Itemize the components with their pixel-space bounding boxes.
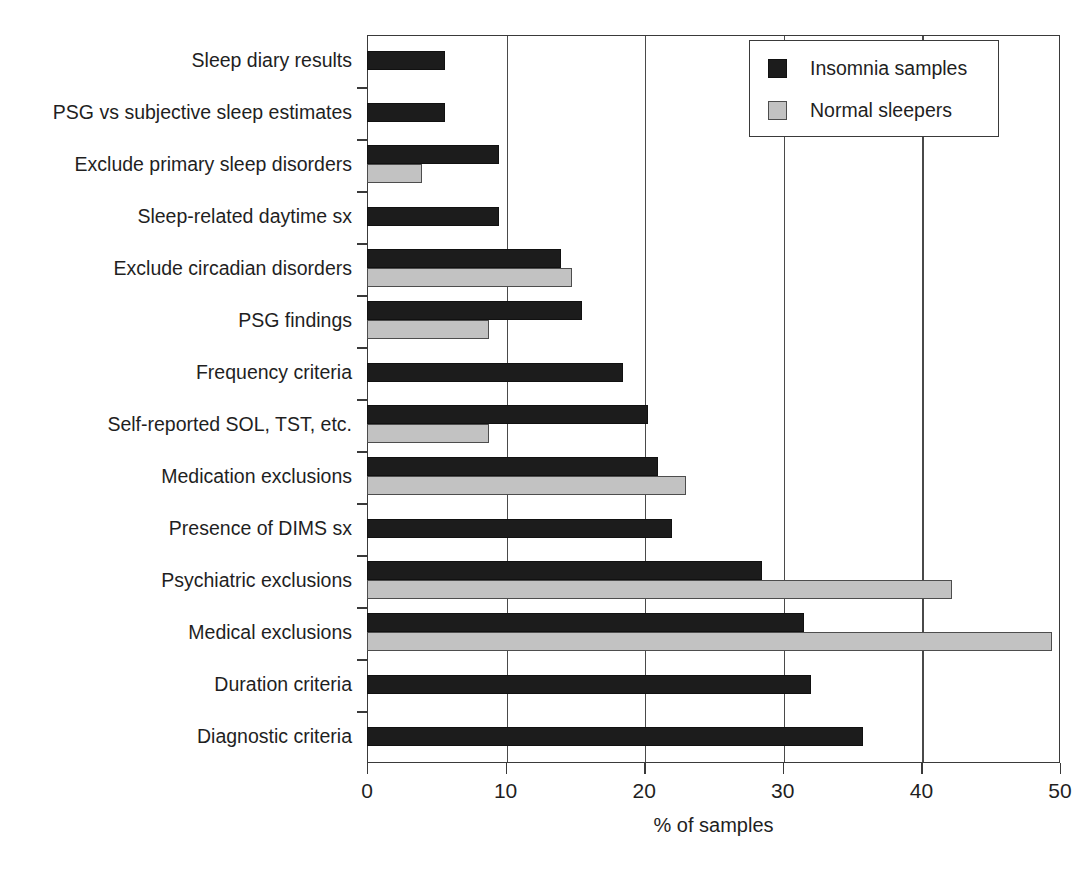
y-axis-label: Diagnostic criteria [0, 725, 352, 747]
bar [367, 727, 863, 746]
y-axis-label: Frequency criteria [0, 361, 352, 383]
bar [367, 424, 489, 443]
bar [367, 145, 499, 164]
x-axis-tick-label: 40 [891, 779, 951, 803]
y-axis-label: PSG findings [0, 309, 352, 331]
y-axis-tick [357, 139, 368, 141]
bar [367, 301, 582, 320]
bar-rows [367, 35, 1060, 763]
y-axis-label: Exclude circadian disorders [0, 257, 352, 279]
bar-group [367, 191, 1060, 243]
black-square-swatch-icon [768, 59, 787, 78]
y-axis-label: Medical exclusions [0, 621, 352, 643]
x-axis-tick-label: 0 [337, 779, 397, 803]
x-axis-tick-label: 10 [476, 779, 536, 803]
bar [367, 613, 804, 632]
legend-entry-normal-sleepers: Normal sleepers [768, 99, 952, 122]
y-axis-tick [357, 711, 368, 713]
bar-group [367, 607, 1060, 659]
legend-label: Insomnia samples [810, 57, 967, 80]
y-axis-tick [357, 503, 368, 505]
bar [367, 405, 648, 424]
gray-square-swatch-icon [768, 101, 787, 120]
bar [367, 51, 445, 70]
y-axis-labels: Sleep diary resultsPSG vs subjective sle… [0, 0, 352, 880]
y-axis-label: Exclude primary sleep disorders [0, 153, 352, 175]
bar-group [367, 399, 1060, 451]
x-axis-tick [921, 763, 922, 774]
bar [367, 561, 762, 580]
x-axis-title: % of samples [367, 814, 1060, 837]
y-axis-tick [357, 451, 368, 453]
x-axis-tick [1060, 763, 1061, 774]
bar [367, 363, 623, 382]
y-axis-label: Self-reported SOL, TST, etc. [0, 413, 352, 435]
y-axis-tick [357, 555, 368, 557]
x-axis-tick [506, 763, 507, 774]
y-axis-label: Sleep-related daytime sx [0, 205, 352, 227]
legend-entry-insomnia-samples: Insomnia samples [768, 57, 967, 80]
bar [367, 457, 658, 476]
bar [367, 476, 686, 495]
bar-group [367, 659, 1060, 711]
y-axis-label: Duration criteria [0, 673, 352, 695]
bar [367, 580, 952, 599]
bar-group [367, 295, 1060, 347]
bar-group [367, 243, 1060, 295]
bar-chart-figure: Sleep diary resultsPSG vs subjective sle… [0, 0, 1091, 880]
bar-group [367, 139, 1060, 191]
x-axis-tick [644, 763, 645, 774]
bar [367, 519, 672, 538]
bar-group [367, 711, 1060, 763]
x-axis-tick [367, 763, 368, 774]
bar [367, 675, 811, 694]
y-axis-tick [357, 659, 368, 661]
x-axis-tick [783, 763, 784, 774]
bar-group [367, 347, 1060, 399]
y-axis-label: Presence of DIMS sx [0, 517, 352, 539]
x-axis-tick-label: 20 [614, 779, 674, 803]
y-axis-tick [357, 243, 368, 245]
y-axis-label: Medication exclusions [0, 465, 352, 487]
chart-legend: Insomnia samples Normal sleepers [749, 40, 999, 137]
x-axis-tick-label: 30 [753, 779, 813, 803]
y-axis-tick [357, 87, 368, 89]
bar [367, 268, 572, 287]
bar [367, 207, 499, 226]
y-axis-tick [357, 347, 368, 349]
y-axis-tick [357, 399, 368, 401]
y-axis-label: Sleep diary results [0, 49, 352, 71]
legend-label: Normal sleepers [810, 99, 952, 122]
y-axis-tick [357, 607, 368, 609]
bar [367, 249, 561, 268]
x-axis-tick-label: 50 [1030, 779, 1090, 803]
y-axis-label: PSG vs subjective sleep estimates [0, 101, 352, 123]
bar [367, 164, 422, 183]
bar-group [367, 555, 1060, 607]
bar [367, 632, 1052, 651]
bar-group [367, 503, 1060, 555]
bar-group [367, 451, 1060, 503]
y-axis-tick [357, 191, 368, 193]
y-axis-label: Psychiatric exclusions [0, 569, 352, 591]
y-axis-tick [357, 295, 368, 297]
bar [367, 103, 445, 122]
bar [367, 320, 489, 339]
